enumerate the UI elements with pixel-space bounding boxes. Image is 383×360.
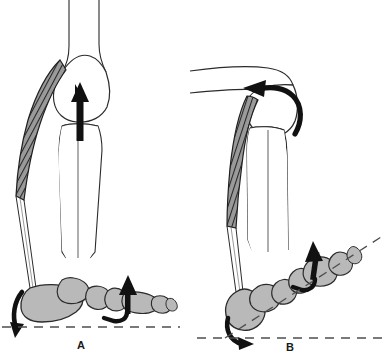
panel-a-phalanges	[151, 296, 177, 314]
panel-a-tibia	[59, 124, 102, 258]
panel-a-talus	[57, 278, 89, 304]
anatomy-figure: A B	[0, 0, 383, 360]
panel-b-label: B	[286, 341, 294, 353]
panel-a-label: A	[77, 339, 85, 351]
panel-b-tibia	[247, 127, 288, 252]
figure-canvas	[0, 0, 383, 360]
panel-b-phalanges	[329, 247, 362, 276]
panel-a	[2, 0, 180, 338]
panel-b	[190, 67, 383, 350]
